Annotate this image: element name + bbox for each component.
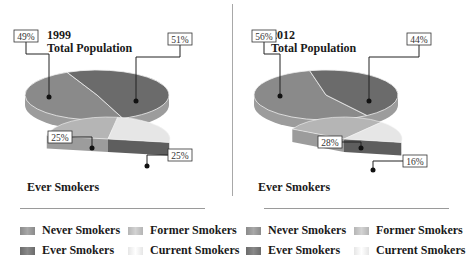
legend-label: Current Smokers	[150, 244, 239, 257]
legend-label: Former Smokers	[150, 224, 237, 237]
legend-label: Former Smokers	[376, 224, 463, 237]
swatch-current	[128, 247, 143, 255]
leader-dot	[359, 146, 364, 151]
slice-value-label: 56%	[255, 32, 273, 42]
legend-label: Never Smokers	[42, 224, 120, 237]
legend-label: Never Smokers	[268, 224, 346, 237]
swatch-former	[354, 227, 369, 235]
slice-value-label: 49%	[17, 32, 35, 42]
panel-divider	[232, 4, 233, 196]
leader-dot	[90, 146, 95, 151]
slice-value-label: 51%	[171, 35, 189, 45]
leader-line	[373, 161, 403, 170]
leader-dot	[367, 99, 372, 104]
legend-rule	[264, 208, 449, 209]
swatch-current	[354, 247, 369, 255]
swatch-ever	[246, 247, 261, 255]
leader-dot	[47, 95, 52, 100]
swatch-never	[246, 227, 261, 235]
leader-dot	[278, 94, 283, 99]
leader-line	[147, 155, 168, 166]
leader-dot	[134, 99, 139, 104]
legend-label: Ever Smokers	[268, 244, 340, 257]
swatch-never	[20, 227, 35, 235]
breakdown-title: Ever Smokers	[27, 181, 99, 194]
breakdown-value-label: 28%	[321, 138, 339, 148]
legend-item-former: Former Smokers	[128, 224, 237, 237]
legend-rule	[20, 208, 205, 209]
breakdown-value-label: 25%	[51, 133, 69, 143]
legend-label: Ever Smokers	[42, 244, 114, 257]
leader-dot	[371, 168, 376, 173]
breakdown-value-label: 25%	[171, 151, 189, 161]
legend-item-never: Never Smokers	[246, 224, 346, 237]
breakdown-title: Ever Smokers	[258, 181, 330, 194]
legend-item-ever: Ever Smokers	[246, 244, 340, 257]
leader-dot	[145, 164, 150, 169]
swatch-former	[128, 227, 143, 235]
slice-value-label: 44%	[410, 35, 428, 45]
swatch-ever	[20, 247, 35, 255]
legend-item-ever: Ever Smokers	[20, 244, 114, 257]
legend-label: Current Smokers	[376, 244, 465, 257]
breakdown-label: 16%	[371, 155, 428, 173]
breakdown-value-label: 16%	[406, 157, 424, 167]
breakdown-slice-current	[108, 117, 170, 142]
legend-item-never: Never Smokers	[20, 224, 120, 237]
legend-item-former: Former Smokers	[354, 224, 463, 237]
legend-item-current: Current Smokers	[128, 244, 239, 257]
legend-item-current: Current Smokers	[354, 244, 465, 257]
